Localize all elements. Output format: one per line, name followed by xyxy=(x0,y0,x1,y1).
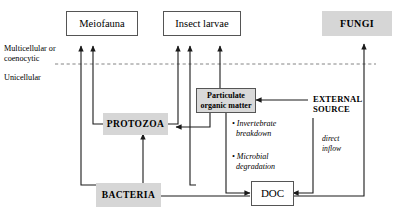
node-fungi-label: FUNGI xyxy=(340,18,374,29)
node-external-source[interactable]: EXTERNAL SOURCE xyxy=(313,94,373,115)
edge-doc-to-fungi xyxy=(293,44,364,196)
node-bacteria[interactable]: BACTERIA xyxy=(96,183,161,207)
direct-inflow-line2: inflow xyxy=(322,144,366,154)
node-meiofauna[interactable]: Meiofauna xyxy=(66,11,138,36)
edge-external-source-to-doc xyxy=(293,118,313,193)
label-unicellular: Unicellular xyxy=(4,73,66,83)
node-insect-larvae[interactable]: Insect larvae xyxy=(163,11,241,36)
node-meiofauna-label: Meiofauna xyxy=(79,18,124,30)
edge-pom-to-protozoa xyxy=(176,113,210,127)
microbial-line1: • Microbial xyxy=(232,152,296,162)
edge-bacteria-to-insect-larvae xyxy=(190,46,196,185)
node-bacteria-label: BACTERIA xyxy=(102,190,155,201)
node-fungi[interactable]: FUNGI xyxy=(322,11,392,36)
node-pom-label-line1: Particulate xyxy=(207,91,245,101)
annotation-direct-inflow: direct inflow xyxy=(322,134,366,154)
multicellular-line1: Multicellular or xyxy=(4,44,66,54)
multicellular-line2: coenocytic xyxy=(4,54,66,64)
node-particulate-organic-matter[interactable]: Particulate organic matter xyxy=(196,88,256,113)
node-protozoa-label: PROTOZOA xyxy=(107,119,164,130)
node-pom-label-line2: organic matter xyxy=(201,101,252,111)
external-source-line1: EXTERNAL xyxy=(313,94,373,104)
edge-protozoa-to-meiofauna xyxy=(93,46,103,124)
node-insect-larvae-label: Insect larvae xyxy=(175,18,228,30)
unicellular-line1: Unicellular xyxy=(4,73,66,83)
microbial-line2: degradation xyxy=(232,162,296,172)
node-protozoa[interactable]: PROTOZOA xyxy=(103,113,168,135)
direct-inflow-line1: direct xyxy=(322,134,366,144)
external-source-line2: SOURCE xyxy=(313,104,373,114)
invertebrate-line2: breakdown xyxy=(232,129,296,139)
node-doc-label: DOC xyxy=(261,187,284,199)
invertebrate-line1: • Invertebrate xyxy=(232,119,296,129)
label-multicellular-or-coenocytic: Multicellular or coenocytic xyxy=(4,44,66,64)
annotation-microbial-degradation: • Microbial degradation xyxy=(232,152,296,172)
edge-protozoa-to-insect-larvae xyxy=(168,46,178,124)
annotation-invertebrate-breakdown: • Invertebrate breakdown xyxy=(232,119,296,139)
diagram-canvas: Meiofauna Insect larvae FUNGI Particulat… xyxy=(0,0,408,224)
node-doc[interactable]: DOC xyxy=(251,181,294,206)
